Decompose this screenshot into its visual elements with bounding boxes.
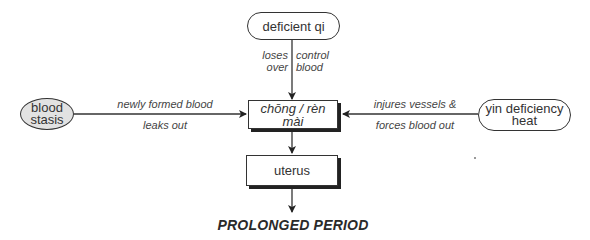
node-yin-deficiency-heat-label-line2: heat bbox=[512, 115, 537, 127]
edge-label-leaks-out: leaks out bbox=[95, 119, 235, 131]
node-deficient-qi: deficient qi bbox=[247, 12, 340, 40]
node-uterus-label: uterus bbox=[274, 164, 310, 177]
edge-label-blood: blood bbox=[296, 61, 329, 73]
node-blood-stasis: blood stasis bbox=[20, 98, 74, 130]
edge-label-newly-formed-blood: newly formed blood bbox=[95, 98, 235, 110]
edge-label-forces-blood-out: forces blood out bbox=[360, 119, 470, 131]
outcome-prolonged-period: PROLONGED PERIOD bbox=[200, 217, 386, 233]
node-blood-stasis-label-line2: stasis bbox=[30, 114, 63, 126]
edge-label-loses: loses bbox=[240, 49, 288, 61]
node-yin-deficiency-heat: yin deficiency heat bbox=[478, 99, 571, 131]
edge-label-injures-vessels: injures vessels & bbox=[360, 98, 470, 110]
scan-artifact-dot bbox=[474, 157, 476, 159]
node-chong-ren-mai: chōng / rèn mài bbox=[248, 100, 338, 129]
edge-label-control: control bbox=[296, 49, 329, 61]
node-uterus: uterus bbox=[246, 155, 338, 186]
edge-label-over: over bbox=[240, 61, 288, 73]
edge-label-control-blood: control blood bbox=[296, 49, 329, 73]
node-chong-ren-mai-label: chōng / rèn mài bbox=[249, 102, 337, 128]
node-deficient-qi-label: deficient qi bbox=[262, 20, 324, 33]
edge-label-loses-over: loses over bbox=[240, 49, 288, 73]
